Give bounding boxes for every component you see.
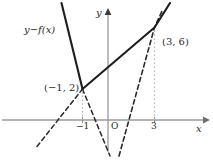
solid-branch-left [62, 3, 83, 89]
droplines [83, 28, 155, 121]
dashed-branch-left [37, 89, 83, 147]
dashed-branch-right [119, 9, 163, 156]
x-axis-arrow [203, 117, 210, 124]
x-axis [2, 117, 210, 124]
x-axis-label: x [196, 124, 202, 134]
curve-label: y−f(x) [24, 25, 55, 35]
solid-graph [62, 3, 171, 89]
graph-figure: y−f(x) (−1, 2) (3, 6) x y O −1 3 [0, 0, 213, 162]
x-tick-label-minus-one: −1 [76, 122, 89, 131]
point-label-right: (3, 6) [162, 37, 189, 47]
dashed-graph-right [119, 9, 163, 156]
y-axis-arrow [105, 8, 112, 15]
dashed-graph [37, 89, 110, 156]
point-label-left: (−1, 2) [44, 83, 79, 93]
origin-label: O [111, 122, 118, 131]
x-tick-label-three: 3 [151, 122, 157, 131]
y-axis-label: y [96, 8, 102, 18]
